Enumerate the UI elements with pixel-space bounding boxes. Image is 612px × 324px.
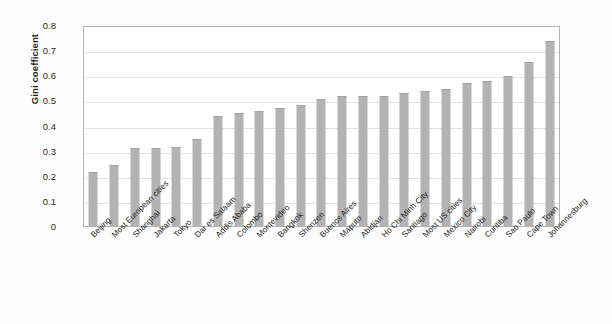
x-axis-tick-labels: BeijingMost European citiesShanghaiJakar… — [83, 227, 560, 324]
y-axis-tick-label: 0.4 — [16, 122, 56, 132]
y-axis-tick-label: 0.6 — [16, 71, 56, 81]
gini-coefficient-bar-chart: Gini coefficient 0.80.70.60.50.40.30.20.… — [0, 0, 612, 324]
bar-slot — [83, 26, 104, 227]
y-axis-tick-label: 0.1 — [16, 197, 56, 207]
bar-slot — [104, 26, 125, 227]
y-axis-tick-label: 0.5 — [16, 96, 56, 106]
bar[interactable] — [89, 172, 98, 227]
y-axis-tick-label: 0.8 — [16, 21, 56, 31]
y-axis-tick-label: 0.3 — [16, 147, 56, 157]
y-axis-tick-label: 0.2 — [16, 172, 56, 182]
y-axis-tick-label: 0.7 — [16, 46, 56, 56]
y-axis-tick-label: 0 — [16, 222, 56, 232]
